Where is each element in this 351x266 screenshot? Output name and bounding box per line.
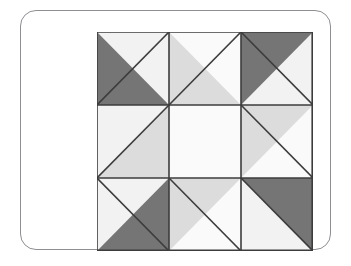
quilt-card: [20, 10, 331, 250]
screenshot-canvas: [0, 0, 351, 266]
cell-center: [169, 105, 241, 178]
quilt-block-svg: [97, 32, 313, 251]
quilt-block-figure: [97, 32, 313, 251]
